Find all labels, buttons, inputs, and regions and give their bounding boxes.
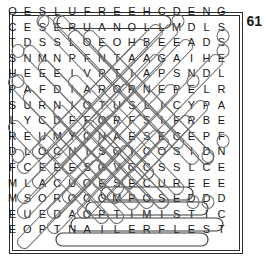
grid-cell[interactable]: T: [109, 51, 124, 67]
grid-cell[interactable]: O: [80, 176, 95, 192]
grid-cell[interactable]: C: [169, 129, 184, 145]
grid-cell[interactable]: I: [80, 144, 95, 160]
grid-cell[interactable]: E: [5, 207, 20, 223]
grid-cell[interactable]: S: [50, 35, 65, 51]
grid-cell[interactable]: H: [199, 51, 214, 67]
grid-cell[interactable]: E: [35, 160, 50, 176]
grid-cell[interactable]: S: [5, 51, 20, 67]
grid-cell[interactable]: O: [109, 144, 124, 160]
grid-cell[interactable]: L: [5, 113, 20, 129]
grid-cell[interactable]: N: [95, 51, 110, 67]
grid-cell[interactable]: E: [20, 20, 35, 36]
grid-cell[interactable]: E: [50, 66, 65, 82]
grid-cell[interactable]: R: [95, 82, 110, 98]
grid-cell[interactable]: E: [154, 129, 169, 145]
grid-cell[interactable]: D: [199, 35, 214, 51]
grid-cell[interactable]: N: [199, 4, 214, 20]
grid-cell[interactable]: O: [80, 35, 95, 51]
grid-cell[interactable]: E: [35, 66, 50, 82]
grid-cell[interactable]: R: [169, 176, 184, 192]
grid-cell[interactable]: C: [139, 144, 154, 160]
grid-cell[interactable]: O: [109, 35, 124, 51]
grid-cell[interactable]: R: [109, 113, 124, 129]
grid-cell[interactable]: A: [139, 66, 154, 82]
grid-cell[interactable]: A: [184, 35, 199, 51]
grid-cell[interactable]: E: [154, 82, 169, 98]
grid-cell[interactable]: T: [95, 98, 110, 114]
grid-cell[interactable]: S: [169, 144, 184, 160]
grid-cell[interactable]: F: [80, 113, 95, 129]
grid-cell[interactable]: E: [214, 113, 229, 129]
grid-cell[interactable]: E: [124, 129, 139, 145]
grid-cell[interactable]: N: [95, 129, 110, 145]
grid-cell[interactable]: P: [169, 82, 184, 98]
grid-cell[interactable]: M: [169, 20, 184, 36]
grid-cell[interactable]: E: [35, 207, 50, 223]
grid-cell[interactable]: S: [154, 191, 169, 207]
grid-cell[interactable]: P: [5, 82, 20, 98]
grid-cell[interactable]: L: [154, 20, 169, 36]
grid-cell[interactable]: B: [139, 35, 154, 51]
grid-cell[interactable]: D: [184, 20, 199, 36]
grid-cell[interactable]: E: [124, 176, 139, 192]
grid-cell[interactable]: U: [35, 129, 50, 145]
grid-cell[interactable]: H: [139, 4, 154, 20]
grid-cell[interactable]: P: [35, 222, 50, 238]
grid-cell[interactable]: F: [5, 160, 20, 176]
grid-cell[interactable]: C: [139, 160, 154, 176]
grid-cell[interactable]: F: [169, 113, 184, 129]
grid-cell[interactable]: A: [20, 82, 35, 98]
grid-cell[interactable]: C: [35, 113, 50, 129]
grid-cell[interactable]: T: [50, 222, 65, 238]
grid-cell[interactable]: C: [50, 176, 65, 192]
grid-cell[interactable]: E: [184, 82, 199, 98]
grid-cell[interactable]: M: [5, 176, 20, 192]
grid-cell[interactable]: S: [80, 160, 95, 176]
grid-cell[interactable]: I: [154, 98, 169, 114]
grid-cell[interactable]: N: [20, 51, 35, 67]
grid-cell[interactable]: R: [95, 4, 110, 20]
grid-cell[interactable]: I: [199, 207, 214, 223]
grid-cell[interactable]: E: [184, 222, 199, 238]
grid-cell[interactable]: S: [169, 207, 184, 223]
grid-cell[interactable]: R: [214, 82, 229, 98]
grid-cell[interactable]: M: [35, 51, 50, 67]
grid-cell[interactable]: U: [154, 176, 169, 192]
grid-cell[interactable]: S: [169, 160, 184, 176]
grid-cell[interactable]: U: [20, 207, 35, 223]
grid-cell[interactable]: V: [80, 66, 95, 82]
grid-cell[interactable]: D: [199, 144, 214, 160]
grid-cell[interactable]: E: [95, 176, 110, 192]
grid-cell[interactable]: G: [95, 160, 110, 176]
grid-cell[interactable]: L: [20, 176, 35, 192]
grid-cell[interactable]: N: [139, 82, 154, 98]
grid-cell[interactable]: F: [80, 51, 95, 67]
grid-cell[interactable]: D: [50, 113, 65, 129]
grid-cell[interactable]: F: [154, 222, 169, 238]
grid-cell[interactable]: I: [65, 98, 80, 114]
grid-cell[interactable]: O: [80, 98, 95, 114]
grid-cell[interactable]: E: [214, 160, 229, 176]
grid-cell[interactable]: U: [80, 20, 95, 36]
grid-cell[interactable]: S: [5, 98, 20, 114]
grid-cell[interactable]: E: [154, 35, 169, 51]
grid-cell[interactable]: R: [50, 191, 65, 207]
grid-cell[interactable]: O: [35, 144, 50, 160]
grid-cell[interactable]: C: [154, 4, 169, 20]
grid-cell[interactable]: D: [20, 35, 35, 51]
grid-cell[interactable]: L: [50, 4, 65, 20]
grid-cell[interactable]: S: [109, 176, 124, 192]
grid-cell[interactable]: O: [80, 207, 95, 223]
grid-cell[interactable]: C: [50, 144, 65, 160]
grid-cell[interactable]: A: [124, 51, 139, 67]
grid-cell[interactable]: R: [139, 222, 154, 238]
grid-cell[interactable]: D: [50, 207, 65, 223]
grid-cell[interactable]: S: [169, 66, 184, 82]
grid-cell[interactable]: O: [95, 191, 110, 207]
grid-cell[interactable]: F: [65, 113, 80, 129]
grid-cell[interactable]: P: [199, 129, 214, 145]
grid-cell[interactable]: T: [109, 66, 124, 82]
grid-cell[interactable]: S: [139, 113, 154, 129]
grid-cell[interactable]: C: [5, 20, 20, 36]
grid-cell[interactable]: O: [35, 191, 50, 207]
